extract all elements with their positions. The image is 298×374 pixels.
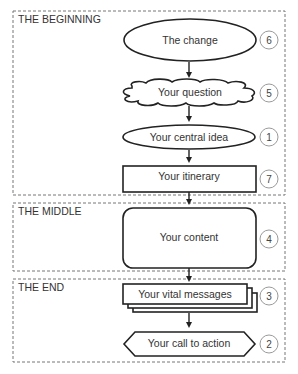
section-beginning-label: THE BEGINNING [18,13,101,25]
step-number: 2 [266,339,272,350]
step-content: Your content 4 [123,208,278,268]
arrow-4 [186,192,192,205]
flow-diagram: THE BEGINNING THE MIDDLE THE END The cha… [0,0,298,374]
step-label: Your question [158,86,222,98]
arrow-down-icon [186,322,192,328]
arrow-down-icon [186,157,192,163]
step-label: Your itinerary [158,170,220,182]
step-itinerary: Your itinerary 7 [123,166,278,192]
step-central-idea: Your central idea 1 [123,125,278,149]
arrow-5 [186,268,192,282]
step-number: 3 [266,291,272,302]
step-vital-messages: Your vital messages 3 [123,284,278,312]
arrow-3 [186,150,192,163]
arrow-6 [186,313,192,328]
step-label: The change [162,34,218,46]
step-number: 1 [266,132,272,143]
arrow-down-icon [186,199,192,205]
step-your-question: Your question 5 [123,79,278,106]
step-the-change: The change 6 [124,19,278,61]
step-number: 4 [266,234,272,245]
section-middle-label: THE MIDDLE [18,205,82,217]
step-label: Your central idea [150,131,229,143]
arrow-2 [186,106,192,122]
arrow-down-icon [186,276,192,282]
step-label: Your vital messages [138,288,232,300]
step-call-to-action: Your call to action 2 [124,332,278,356]
step-number: 5 [266,88,272,99]
step-number: 6 [266,35,272,46]
step-label: Your call to action [148,337,231,349]
arrow-down-icon [186,72,192,78]
step-label: Your content [160,231,219,243]
section-end-label: THE END [18,281,65,293]
arrow-down-icon [186,116,192,122]
arrow-1 [186,62,192,78]
step-number: 7 [266,174,272,185]
